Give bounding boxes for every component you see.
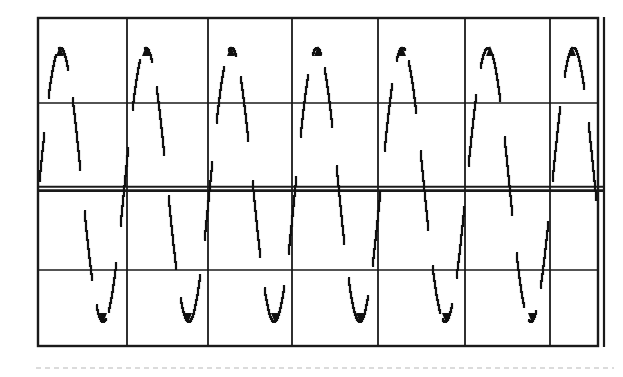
scope-screen-svg [0,0,623,377]
oscilloscope-screen-capture [0,0,623,377]
